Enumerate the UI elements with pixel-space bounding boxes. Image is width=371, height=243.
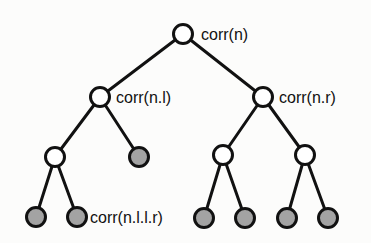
tree-node-n-r-r-l-shaded: [278, 209, 297, 228]
node-label-n-l: corr(n.l): [116, 89, 171, 106]
tree-edge-n-l-to-n-l-l: [55, 97, 100, 157]
tree-node-n-l-l-r-shaded: [68, 208, 87, 227]
tree-node-n-r-l-r-shaded: [236, 209, 255, 228]
tree-node-n-l-r-shaded: [130, 148, 149, 167]
tree-diagram-canvas: corr(n)corr(n.l)corr(n.r)corr(n.l.l.r): [0, 0, 371, 243]
tree-edge-n-to-n-r: [183, 34, 263, 97]
tree-node-n-l-open: [91, 88, 110, 107]
tree-node-n-r-open: [254, 88, 273, 107]
tree-node-n-r-r-open: [296, 146, 315, 165]
tree-node-n-r-l-l-shaded: [195, 209, 214, 228]
tree-edge-n-to-n-l: [100, 34, 183, 97]
tree-node-n-open: [174, 25, 193, 44]
node-label-n-r: corr(n.r): [279, 89, 336, 106]
node-label-n: corr(n): [201, 26, 248, 43]
tree-node-n-l-l-l-shaded: [27, 208, 46, 227]
tree-node-n-r-l-open: [214, 146, 233, 165]
tree-diagram: corr(n)corr(n.l)corr(n.r)corr(n.l.l.r): [0, 0, 371, 243]
node-label-n-l-l-r: corr(n.l.l.r): [90, 209, 163, 226]
tree-node-n-r-r-r-shaded: [319, 209, 338, 228]
tree-node-n-l-l-open: [46, 148, 65, 167]
